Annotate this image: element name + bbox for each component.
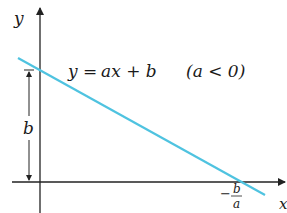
- x-intercept-label: − b a: [220, 182, 242, 211]
- x-intercept-numerator: b: [233, 182, 241, 196]
- equation-equals: =: [83, 61, 97, 81]
- x-axis-label: x: [279, 195, 287, 213]
- x-intercept-denominator: a: [233, 197, 240, 211]
- y-axis-label: y: [13, 8, 24, 28]
- equation-rhs: ax + b: [101, 61, 157, 81]
- x-intercept-sign: −: [220, 186, 231, 201]
- line-graph-diagram: y x y = ax + b (a < 0) b − b a: [0, 0, 287, 213]
- y-intercept-label: b: [23, 118, 34, 138]
- equation-lhs: y: [67, 61, 78, 81]
- equation-condition: (a < 0): [186, 61, 245, 81]
